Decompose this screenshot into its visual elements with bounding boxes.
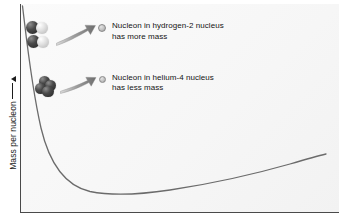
nucleon-bullet-icon — [98, 24, 106, 32]
y-axis-dash — [12, 83, 13, 99]
callout-hydrogen-2-line2: has more mass — [112, 32, 167, 43]
y-axis-label-text: Mass per nucleon — [8, 101, 18, 170]
callout-hydrogen-2-line1: Nucleon in hydrogen-2 nucleus — [112, 21, 224, 32]
nucleon-sphere-light — [36, 22, 48, 34]
nucleon-sphere-light — [37, 36, 49, 48]
hydrogen-2-nucleus-icon — [26, 21, 54, 51]
binding-energy-figure: Mass per nucleon Nucleon in hydrogen-2 n… — [0, 0, 339, 224]
nucleon-sphere-dark — [42, 86, 54, 98]
up-arrow-icon — [11, 76, 16, 82]
callout-helium-4-line1: Nucleon in helium-4 nucleus — [112, 73, 214, 84]
nucleon-bullet-icon — [99, 76, 106, 83]
plot-area — [20, 4, 339, 213]
helium-4-nucleus-icon — [35, 76, 59, 102]
y-axis-label: Mass per nucleon — [8, 58, 18, 188]
callout-helium-4-line2: has less mass — [112, 83, 163, 94]
